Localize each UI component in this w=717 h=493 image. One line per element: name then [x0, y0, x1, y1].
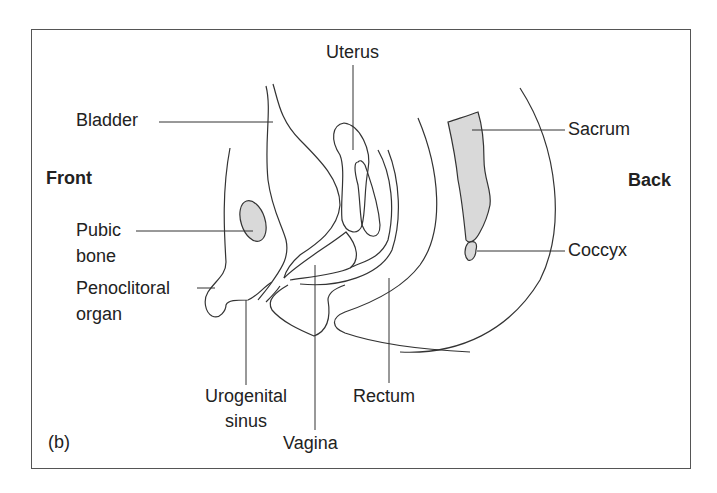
label-front: Front [46, 168, 92, 189]
label-uterus: Uterus [326, 42, 379, 63]
label-penoclitoral: Penoclitoral [76, 278, 170, 299]
label-bone: bone [76, 246, 116, 267]
urogenital-channel [258, 282, 280, 302]
uterus-outer [334, 123, 369, 232]
uterus-inner [355, 161, 380, 236]
label-pubic: Pubic [76, 220, 121, 241]
bladder [266, 86, 287, 282]
label-bladder: Bladder [76, 110, 138, 131]
bladder-wall [273, 84, 340, 278]
vagina [284, 232, 356, 280]
coccyx [465, 242, 477, 261]
rectum-wall [334, 118, 470, 352]
pubic-bone [235, 197, 271, 244]
vaginal-pocket [270, 285, 345, 336]
label-vagina: Vagina [283, 433, 338, 454]
sacrum [448, 112, 490, 242]
label-back: Back [628, 170, 671, 191]
label-sacrum: Sacrum [568, 119, 630, 140]
label-urogenital: Urogenital [186, 386, 306, 407]
rectum-upper [300, 150, 398, 285]
label-coccyx: Coccyx [568, 240, 627, 261]
label-sinus: sinus [186, 411, 306, 432]
leader-lines [136, 65, 565, 430]
label-organ: organ [76, 304, 122, 325]
label-rectum: Rectum [353, 386, 415, 407]
panel-label: (b) [48, 432, 70, 453]
